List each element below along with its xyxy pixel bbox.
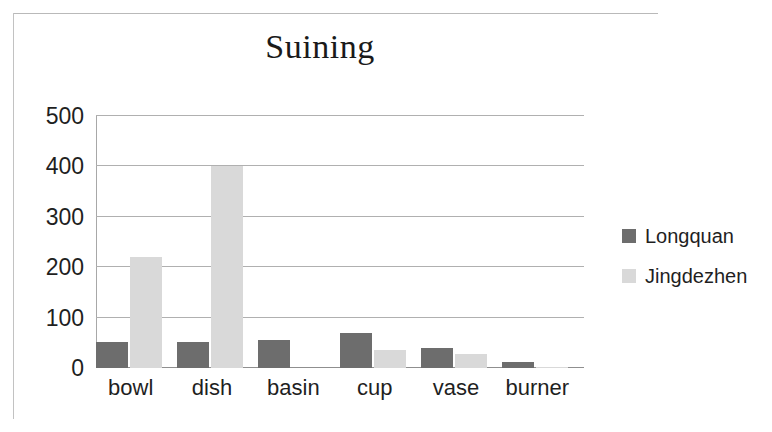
bar-vase-jingdezhen: [455, 354, 487, 368]
bar-cup-longquan: [340, 333, 372, 368]
bar-group: [503, 116, 584, 368]
y-tick-label: 500: [28, 103, 84, 130]
legend-swatch-icon: [622, 269, 636, 283]
x-tick-label: burner: [506, 375, 570, 401]
x-tick-label: bowl: [108, 375, 153, 401]
bar-dish-jingdezhen: [211, 166, 243, 368]
x-tick-label: cup: [357, 375, 392, 401]
x-tick-label: vase: [433, 375, 479, 401]
chart-figure: Suining 5004003002001000 bowldishbasincu…: [0, 0, 772, 432]
bar-burner-longquan: [502, 362, 534, 368]
legend-swatch-icon: [622, 229, 636, 243]
figure-border-left: [13, 13, 14, 419]
bar-group: [421, 116, 502, 368]
legend-item-jingdezhen[interactable]: Jingdezhen: [622, 256, 772, 296]
bar-bowl-jingdezhen: [130, 257, 162, 368]
bar-group: [177, 116, 258, 368]
bar-group: [96, 116, 177, 368]
legend-item-longquan[interactable]: Longquan: [622, 216, 772, 256]
y-tick-label: 100: [28, 304, 84, 331]
chart-title: Suining: [0, 28, 640, 66]
chart-legend: LongquanJingdezhen: [622, 216, 772, 296]
legend-label: Jingdezhen: [645, 265, 747, 288]
bar-basin-longquan: [258, 340, 290, 368]
x-axis-tick-labels: bowldishbasincupvaseburner: [96, 375, 584, 405]
x-tick-label: dish: [192, 375, 232, 401]
legend-label: Longquan: [645, 225, 734, 248]
y-tick-label: 200: [28, 254, 84, 281]
bar-burner-jingdezhen: [536, 367, 568, 369]
bar-dish-longquan: [177, 342, 209, 368]
bar-group: [259, 116, 340, 368]
bar-bowl-longquan: [96, 342, 128, 368]
bar-group: [340, 116, 421, 368]
bar-series-container: [96, 116, 584, 368]
x-tick-label: basin: [267, 375, 320, 401]
bar-vase-longquan: [421, 348, 453, 368]
y-tick-label: 300: [28, 203, 84, 230]
bar-cup-jingdezhen: [374, 350, 406, 368]
y-tick-label: 0: [28, 355, 84, 382]
y-tick-label: 400: [28, 153, 84, 180]
y-axis-tick-labels: 5004003002001000: [22, 116, 84, 368]
